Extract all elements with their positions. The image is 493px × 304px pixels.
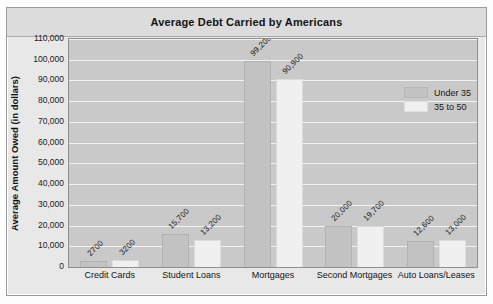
- x-axis-tick-labels: Credit CardsStudent LoansMortgagesSecond…: [68, 270, 478, 290]
- bar-1-3: [357, 226, 384, 267]
- chart-title: Average Debt Carried by Americans: [151, 16, 343, 28]
- legend-swatch-icon: [404, 101, 428, 112]
- chart-title-band: Average Debt Carried by Americans: [7, 8, 486, 37]
- y-axis-title: Average Amount Owed (in dollars): [5, 38, 23, 268]
- bar-0-4: [407, 241, 434, 267]
- chart-legend: Under 3535 to 50: [404, 87, 471, 112]
- y-axis-tick-labels: 010,00020,00030,00040,00050,00060,00070,…: [23, 37, 67, 268]
- bar-0-2: [244, 61, 271, 267]
- y-tick-label: 110,000: [34, 33, 64, 43]
- y-tick-label: 100,000: [33, 54, 64, 64]
- x-tick-label: Student Loans: [162, 270, 220, 280]
- bar-1-0: [112, 260, 139, 267]
- legend-item-0[interactable]: Under 35: [404, 87, 471, 98]
- x-tick-label: Second Mortgages: [317, 270, 393, 280]
- y-tick-label: 90,000: [38, 74, 64, 84]
- legend-item-1[interactable]: 35 to 50: [404, 101, 471, 112]
- legend-swatch-icon: [404, 87, 428, 98]
- legend-label: Under 35: [434, 88, 471, 98]
- plot-area: 2700320015,70013,20099,20090,90020,00019…: [68, 38, 478, 268]
- y-tick-label: 60,000: [38, 137, 64, 147]
- x-tick-label: Mortgages: [252, 270, 295, 280]
- legend-label: 35 to 50: [434, 102, 467, 112]
- bar-1-1: [194, 240, 221, 267]
- y-tick-label: 0: [59, 261, 64, 271]
- y-tick-label: 70,000: [38, 116, 64, 126]
- y-tick-label: 40,000: [38, 178, 64, 188]
- chart-container: Average Debt Carried by Americans Averag…: [6, 7, 487, 296]
- bar-0-1: [162, 234, 189, 267]
- y-tick-label: 20,000: [38, 220, 64, 230]
- bar-1-2: [276, 79, 303, 267]
- bar-1-4: [439, 240, 466, 267]
- y-tick-label: 10,000: [38, 240, 64, 250]
- bar-0-0: [80, 261, 107, 267]
- x-tick-label: Credit Cards: [85, 270, 136, 280]
- y-tick-label: 80,000: [38, 95, 64, 105]
- y-tick-label: 30,000: [38, 199, 64, 209]
- x-tick-label: Auto Loans/Leases: [398, 270, 475, 280]
- y-axis-title-text: Average Amount Owed (in dollars): [9, 75, 20, 230]
- bar-0-3: [325, 226, 352, 267]
- y-tick-label: 50,000: [38, 157, 64, 167]
